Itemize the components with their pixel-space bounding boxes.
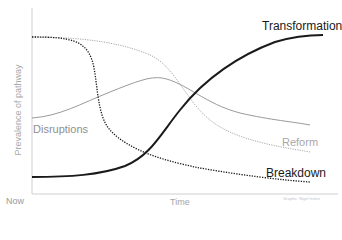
series-disruptions-line [32, 78, 310, 125]
label-breakdown: Breakdown [266, 167, 326, 179]
label-disruptions: Disruptions [33, 124, 88, 135]
graphic-credit: Graphic: Nigel Inskin [283, 197, 320, 201]
x-axis-start-label: Now [6, 197, 24, 206]
label-transformation: Transformation [262, 20, 342, 32]
label-reform: Reform [282, 137, 318, 148]
x-axis-title: Time [170, 198, 190, 207]
y-axis-title: Prevalence of pathway [14, 64, 23, 155]
series-breakdown-line [32, 37, 310, 182]
